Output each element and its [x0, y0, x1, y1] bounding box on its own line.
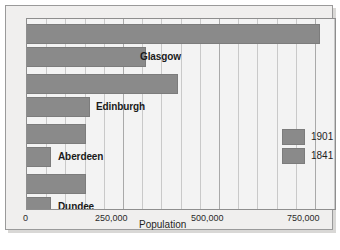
gridline-800000: [334, 19, 335, 209]
gridline-450000: [200, 19, 201, 209]
category-label-aberdeen: Aberdeen: [58, 151, 103, 162]
gridline-600000: [257, 19, 258, 209]
gridline-550000: [238, 19, 239, 209]
bar-edinburgh-1841: [27, 97, 90, 117]
bar-aberdeen-1901: [27, 124, 86, 144]
xtick-label-0: 0: [23, 213, 28, 223]
category-label-dundee: Dundee: [58, 201, 94, 210]
category-label-edinburgh: Edinburgh: [96, 101, 145, 112]
gridline-500000: [219, 19, 220, 209]
xtick-label-250000: 250,000: [95, 213, 128, 223]
legend-swatch-1841: [282, 148, 305, 164]
bar-aberdeen-1841: [27, 147, 51, 167]
gridline-350000: [161, 19, 162, 209]
gridline-700000: [296, 19, 297, 209]
figure-frame: Glasgow Edinburgh Aberdeen Dundee 1901 1…: [5, 5, 333, 230]
category-label-glasgow: Glasgow: [140, 51, 181, 62]
population-bar-chart: Glasgow Edinburgh Aberdeen Dundee 1901 1…: [0, 0, 340, 250]
gridline-400000: [181, 19, 182, 209]
legend-label-1901: 1901: [311, 131, 333, 142]
xtick-label-750000: 750,000: [287, 213, 320, 223]
gridline-750000: [315, 19, 316, 209]
gridline-650000: [277, 19, 278, 209]
bar-edinburgh-1901: [27, 74, 178, 94]
bar-glasgow-1841: [27, 47, 146, 67]
x-axis-title: Population: [139, 219, 186, 230]
bar-glasgow-1901: [27, 24, 320, 44]
legend-label-1841: 1841: [311, 150, 333, 161]
bar-dundee-1901: [27, 174, 86, 194]
xtick-label-500000: 500,000: [191, 213, 224, 223]
plot-area: Glasgow Edinburgh Aberdeen Dundee 1901 1…: [26, 18, 336, 210]
legend-swatch-1901: [282, 129, 305, 145]
bar-dundee-1841: [27, 197, 51, 210]
